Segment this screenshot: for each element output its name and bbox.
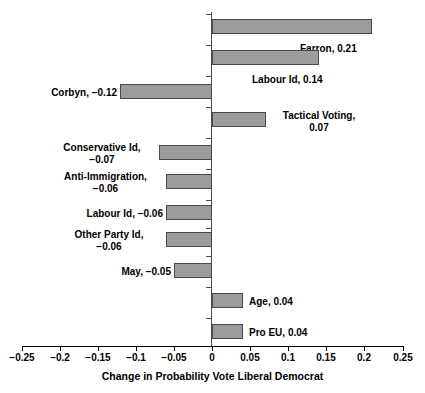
category-tick	[206, 228, 211, 229]
bar-label-pro-eu: Pro EU, 0.04	[249, 327, 349, 339]
bar-chart: Farron, 0.21 Labour Id, 0.14 Corbyn, −0.…	[0, 0, 425, 393]
bar-labour-id-positive	[212, 50, 319, 65]
category-tick	[206, 169, 211, 170]
x-axis-tick	[136, 346, 137, 351]
x-axis-tick	[174, 346, 175, 351]
bar-conservative-id	[159, 145, 212, 160]
bar-label-anti-immigration: Anti-Immigration, −0.06	[50, 171, 161, 194]
category-tick	[206, 76, 211, 77]
bar-label-age: Age, 0.04	[249, 296, 349, 308]
bar-label-conservative-id: Conservative Id, −0.07	[50, 142, 154, 165]
bar-age	[212, 293, 243, 308]
bar-label-may: May, −0.05	[75, 266, 171, 278]
x-tick-label: 0.25	[380, 352, 425, 363]
bar-label-labour-id-positive: Labour Id, 0.14	[252, 74, 392, 86]
category-tick	[206, 200, 211, 201]
bar-may	[174, 263, 212, 278]
category-tick	[206, 107, 211, 108]
x-axis-line	[22, 346, 404, 347]
bar-pro-eu	[212, 324, 243, 339]
x-axis-tick	[98, 346, 99, 351]
category-tick	[206, 45, 211, 46]
bar-label-labour-id-negative: Labour Id, −0.06	[55, 208, 163, 220]
x-axis-tick	[288, 346, 289, 351]
bar-label-other-party-id: Other Party Id, −0.06	[55, 229, 163, 252]
x-axis-tick	[60, 346, 61, 351]
bar-other-party-id	[166, 232, 212, 247]
bar-label-tactical-voting: Tactical Voting, 0.07	[264, 110, 374, 133]
bar-labour-id-negative	[166, 205, 212, 220]
category-tick	[206, 138, 211, 139]
category-tick	[206, 318, 211, 319]
x-axis-tick	[250, 346, 251, 351]
bar-farron	[212, 19, 372, 34]
x-axis-tick	[22, 346, 23, 351]
x-axis-tick	[212, 346, 213, 351]
category-tick	[206, 287, 211, 288]
x-axis-title: Change in Probability Vote Liberal Democ…	[0, 370, 425, 382]
category-tick	[206, 14, 211, 15]
plot-area: Farron, 0.21 Labour Id, 0.14 Corbyn, −0.…	[0, 0, 425, 346]
bar-tactical-voting	[212, 112, 266, 127]
bar-label-corbyn: Corbyn, −0.12	[20, 87, 117, 99]
x-axis-tick	[403, 346, 404, 351]
x-axis-tick	[326, 346, 327, 351]
bar-corbyn	[120, 84, 212, 99]
bar-anti-immigration	[166, 174, 212, 189]
x-axis-tick	[364, 346, 365, 351]
category-tick	[206, 256, 211, 257]
